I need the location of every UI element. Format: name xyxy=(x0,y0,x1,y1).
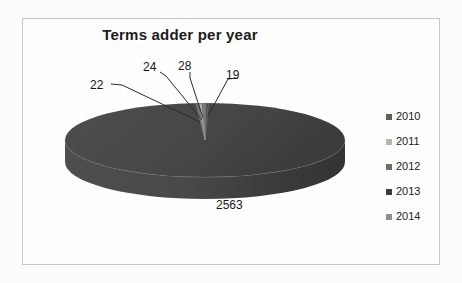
data-label-24: 24 xyxy=(143,60,156,74)
legend-swatch-icon xyxy=(386,164,392,170)
data-label-2563: 2563 xyxy=(216,198,243,212)
legend-label-2012: 2012 xyxy=(396,161,420,172)
legend-swatch-icon xyxy=(386,214,392,220)
legend-item-2014[interactable]: 2014 xyxy=(386,204,438,229)
legend-item-2010[interactable]: 2010 xyxy=(386,104,438,129)
data-label-19: 19 xyxy=(226,68,239,82)
legend-label-2011: 2011 xyxy=(396,136,420,147)
chart-legend: 2010 2011 2012 2013 2014 xyxy=(386,104,438,229)
legend-item-2011[interactable]: 2011 xyxy=(386,129,438,154)
legend-item-2013[interactable]: 2013 xyxy=(386,179,438,204)
legend-swatch-icon xyxy=(386,189,392,195)
legend-label-2010: 2010 xyxy=(396,111,420,122)
legend-swatch-icon xyxy=(386,139,392,145)
legend-label-2013: 2013 xyxy=(396,186,420,197)
data-label-28: 28 xyxy=(178,59,191,73)
legend-item-2012[interactable]: 2012 xyxy=(386,154,438,179)
chart-title: Terms adder per year xyxy=(0,26,360,43)
legend-label-2014: 2014 xyxy=(396,211,420,222)
data-label-22: 22 xyxy=(90,78,103,92)
chart-frame xyxy=(22,18,440,265)
chart-image: Terms adder per year xyxy=(0,0,462,283)
legend-swatch-icon xyxy=(386,114,392,120)
